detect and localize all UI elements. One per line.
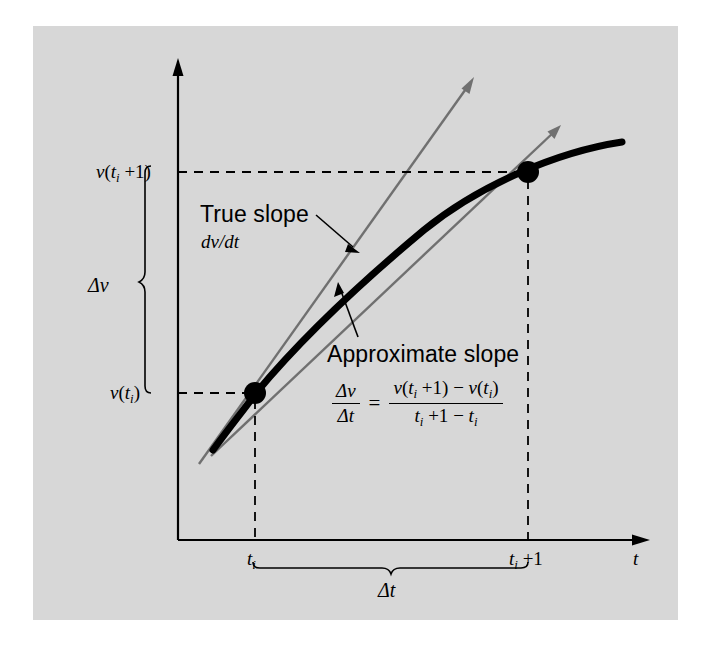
value-label-upper-plus: +1: [120, 161, 145, 182]
delta-v-label: Δv: [88, 275, 109, 295]
data-point-upper: [517, 161, 539, 183]
equation-lhs-numerator: Δv: [332, 379, 360, 403]
true-slope-callout-subtitle: dv/dt: [201, 232, 239, 251]
x-tick-label-upper: ti +1: [509, 549, 543, 572]
rhs-den-sub2: i: [474, 414, 478, 429]
equation-rhs-denominator: ti +1 − ti: [411, 404, 482, 431]
rhs-num-fn1: v: [393, 377, 401, 398]
x-tick-lower-sub: i: [252, 557, 256, 572]
equation-rhs: v(ti +1) − v(ti) ti +1 − ti: [389, 376, 502, 431]
approximate-slope-equation: Δv Δt = v(ti +1) − v(ti) ti +1 − ti: [332, 376, 503, 431]
x-tick-label-lower: ti: [247, 549, 256, 572]
rhs-num-plus1: +1: [417, 377, 442, 398]
equation-lhs: Δv Δt: [332, 379, 360, 429]
x-axis-variable-label: t: [633, 549, 638, 568]
value-label-lower: v(ti): [110, 383, 140, 406]
value-label-lower-close: ): [134, 382, 140, 403]
true-slope-callout-title: True slope: [200, 203, 309, 226]
rhs-den-plus1: +1: [423, 405, 448, 426]
x-tick-upper-plus: +1: [518, 548, 543, 569]
value-label-upper: v(ti +1): [96, 162, 151, 185]
approximate-slope-callout-title: Approximate slope: [327, 343, 519, 366]
rhs-num-minus: −: [448, 377, 468, 398]
figure-canvas: [0, 0, 716, 648]
delta-t-label: Δt: [378, 580, 395, 600]
equation-lhs-denominator: Δt: [334, 404, 358, 428]
figure-root: v(ti +1) v(ti) Δv ti ti +1 t Δt True slo…: [0, 0, 716, 648]
data-point-lower: [244, 382, 266, 404]
figure-background-panel: [33, 26, 678, 620]
value-label-upper-close: ): [145, 161, 151, 182]
equation-operator: =: [360, 391, 390, 416]
rhs-den-minus: −: [448, 405, 468, 426]
equation-rhs-numerator: v(ti +1) − v(ti): [389, 376, 502, 403]
rhs-num-fn2: v: [469, 377, 477, 398]
